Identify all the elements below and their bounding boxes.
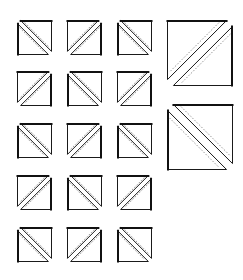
small-hst-unit [117, 123, 152, 158]
small-hst-unit [117, 175, 152, 210]
small-hst-unit [117, 227, 152, 262]
half-square-triangle-icon [67, 20, 102, 55]
small-hst-unit [17, 71, 52, 106]
small-hst-unit [17, 227, 52, 262]
half-square-triangle-icon [67, 175, 102, 210]
half-square-triangle-icon [67, 71, 102, 106]
half-square-triangle-icon [167, 20, 233, 86]
large-hst-unit [167, 20, 233, 86]
quilt-diagram [0, 0, 243, 280]
small-hst-unit [117, 71, 152, 106]
half-square-triangle-icon [17, 20, 52, 55]
half-square-triangle-icon [167, 104, 233, 170]
half-square-triangle-icon [17, 71, 52, 106]
half-square-triangle-icon [117, 175, 152, 210]
half-square-triangle-icon [117, 123, 152, 158]
half-square-triangle-icon [67, 123, 102, 158]
half-square-triangle-icon [117, 71, 152, 106]
half-square-triangle-icon [17, 123, 52, 158]
half-square-triangle-icon [117, 20, 152, 55]
half-square-triangle-icon [117, 227, 152, 262]
small-hst-unit [67, 123, 102, 158]
small-hst-unit [17, 123, 52, 158]
small-hst-unit [67, 175, 102, 210]
large-hst-unit [167, 104, 233, 170]
small-hst-unit [67, 20, 102, 55]
small-hst-unit [67, 227, 102, 262]
half-square-triangle-icon [17, 227, 52, 262]
half-square-triangle-icon [17, 175, 52, 210]
small-hst-unit [117, 20, 152, 55]
small-hst-unit [17, 20, 52, 55]
half-square-triangle-icon [67, 227, 102, 262]
small-hst-unit [67, 71, 102, 106]
small-hst-unit [17, 175, 52, 210]
